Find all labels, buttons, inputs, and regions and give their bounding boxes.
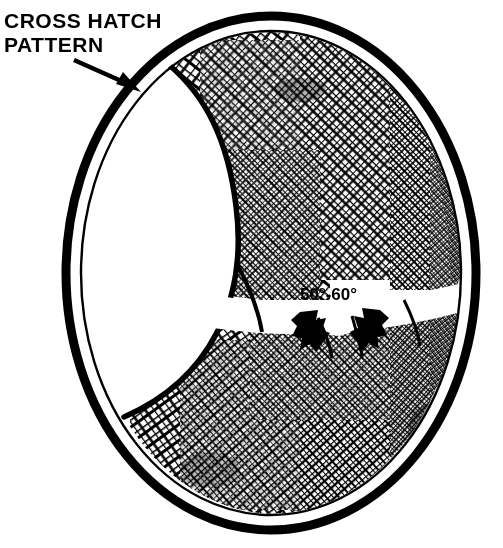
figure-canvas: CROSS HATCH PATTERN 50°-60° xyxy=(0,0,503,548)
callout-line-1: CROSS HATCH xyxy=(4,9,162,32)
angle-label: 50°-60° xyxy=(300,285,357,304)
cross-hatch-pattern-figure: CROSS HATCH PATTERN 50°-60° xyxy=(0,0,503,548)
callout-line-2: PATTERN xyxy=(4,33,104,56)
